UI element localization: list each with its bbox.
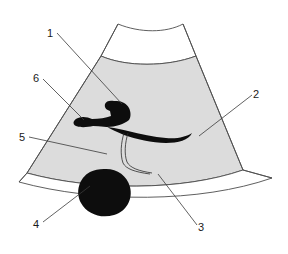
label-number-2: 2 [253, 88, 259, 100]
label-number-4: 4 [33, 218, 39, 230]
label-number-1: 1 [47, 27, 53, 39]
ultrasound-sector-diagram: 1 2 3 4 5 6 [0, 0, 288, 254]
label-number-5: 5 [19, 131, 25, 143]
lesion-mass [78, 169, 131, 216]
ultrasound-figure-canvas: 1 2 3 4 5 6 [0, 0, 288, 254]
label-number-6: 6 [33, 72, 39, 84]
label-number-3: 3 [198, 221, 204, 233]
sector-fan-group [19, 24, 272, 197]
